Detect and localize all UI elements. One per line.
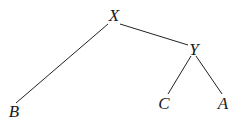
node-c: C bbox=[158, 95, 169, 112]
node-b: B bbox=[9, 103, 19, 120]
tree-diagram: X Y B C A bbox=[0, 0, 237, 124]
edge-y-a bbox=[196, 56, 222, 94]
node-y: Y bbox=[189, 41, 198, 58]
edge-y-c bbox=[168, 56, 191, 94]
node-x: X bbox=[109, 7, 119, 24]
node-a: A bbox=[218, 95, 228, 112]
edge-x-y bbox=[120, 24, 188, 45]
edge-x-b bbox=[16, 24, 108, 103]
